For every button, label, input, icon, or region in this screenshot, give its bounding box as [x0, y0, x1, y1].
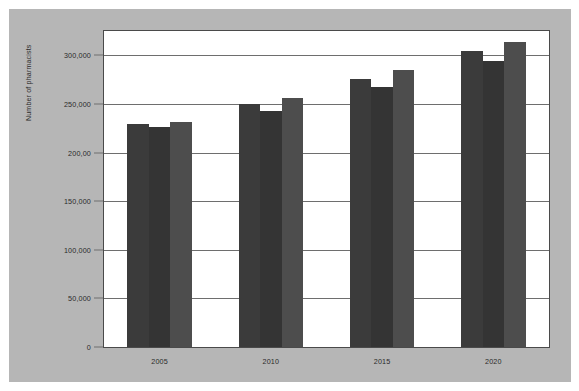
bar-2020-series-1: [461, 51, 483, 347]
y-tick-mark: [94, 347, 103, 348]
y-tick-label: 200,00: [68, 148, 91, 157]
x-tick-label-2020: 2020: [485, 357, 502, 366]
y-tick-label: 250,000: [64, 99, 91, 108]
x-axis: 2005201020152020: [103, 348, 550, 374]
y-tick-mark: [94, 201, 103, 202]
bar-2015-series-3: [393, 70, 415, 347]
bar-2010-series-2: [260, 111, 282, 347]
y-tick-label: 300,000: [64, 51, 91, 60]
bar-2005-series-3: [170, 122, 192, 347]
bar-2020-series-2: [483, 61, 505, 347]
y-tick-mark: [94, 249, 103, 250]
y-tick-mark: [94, 103, 103, 104]
y-tick-label: 50,000: [68, 294, 91, 303]
y-tick-mark: [94, 152, 103, 153]
chart-figure: Number of pharmacists 050,000100,000150,…: [9, 9, 571, 382]
bar-2010-series-1: [239, 104, 261, 347]
plot-area: [104, 31, 549, 347]
bar-2015-series-1: [350, 79, 372, 347]
bar-2010-series-3: [282, 98, 304, 347]
bar-2005-series-1: [127, 124, 149, 347]
y-tick-label: 0: [87, 343, 91, 352]
y-axis: 050,000100,000150,000200,00250,000300,00…: [9, 30, 103, 348]
bar-2005-series-2: [149, 127, 171, 347]
x-tick-label-2015: 2015: [374, 357, 391, 366]
x-tick-label-2005: 2005: [151, 357, 168, 366]
bar-2020-series-3: [504, 42, 526, 347]
y-tick-label: 150,000: [64, 197, 91, 206]
y-tick-label: 100,000: [64, 245, 91, 254]
x-tick-label-2010: 2010: [263, 357, 280, 366]
bar-2015-series-2: [371, 87, 393, 347]
y-tick-mark: [94, 55, 103, 56]
y-tick-mark: [94, 298, 103, 299]
plot-frame: [103, 30, 550, 348]
